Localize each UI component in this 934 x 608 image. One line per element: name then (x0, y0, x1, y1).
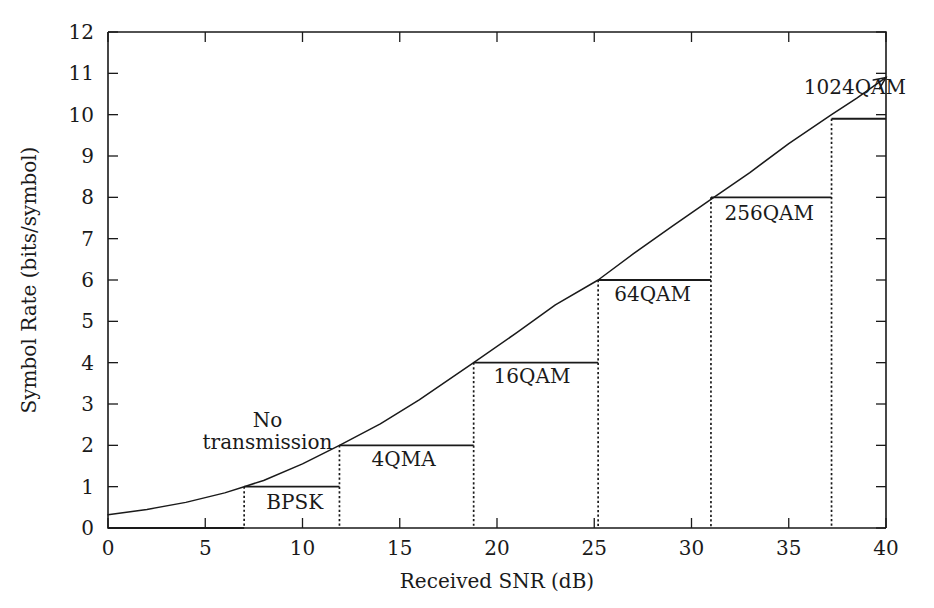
x-tick-label: 20 (484, 536, 509, 560)
y-tick-label: 10 (69, 103, 94, 127)
y-tick-label: 7 (81, 227, 94, 251)
y-tick-label: 6 (81, 268, 94, 292)
figure-container: 0123456789101112 0510152025303540 Notran… (0, 0, 934, 608)
x-tick-label: 25 (582, 536, 607, 560)
y-tick-label: 1 (81, 475, 94, 499)
x-axis-ticks: 0510152025303540 (102, 32, 899, 560)
1024qam-label: 1024QAM (804, 75, 906, 99)
x-tick-label: 40 (873, 536, 898, 560)
x-tick-label: 15 (387, 536, 412, 560)
y-axis-title: Symbol Rate (bits/symbol) (17, 147, 41, 414)
y-tick-label: 3 (81, 392, 94, 416)
region-annotations: NotransmissionBPSK4QMA16QAM64QAM256QAM10… (203, 75, 906, 514)
x-tick-label: 35 (776, 536, 801, 560)
16qam-label: 16QAM (494, 364, 571, 388)
bpsk-label: BPSK (266, 490, 324, 514)
capacity-chart: 0123456789101112 0510152025303540 Notran… (0, 0, 934, 608)
y-tick-label: 2 (81, 433, 94, 457)
x-tick-label: 10 (290, 536, 315, 560)
256qam-label: 256QAM (725, 201, 815, 225)
modulation-step-function (108, 119, 886, 528)
y-axis-ticks: 0123456789101112 (69, 20, 886, 540)
y-tick-label: 5 (81, 309, 94, 333)
y-tick-label: 12 (69, 20, 94, 44)
y-tick-label: 4 (81, 351, 94, 375)
y-tick-label: 8 (81, 185, 94, 209)
x-axis-title: Received SNR (dB) (400, 569, 594, 593)
y-tick-label: 11 (69, 61, 94, 85)
x-tick-label: 5 (199, 536, 212, 560)
no-transmission-line1: No (253, 408, 283, 432)
4qma-label: 4QMA (372, 447, 437, 471)
64qam-label: 64QAM (614, 282, 691, 306)
x-tick-label: 30 (679, 536, 704, 560)
y-tick-label: 0 (81, 516, 94, 540)
no-transmission-line2: transmission (203, 430, 333, 454)
y-tick-label: 9 (81, 144, 94, 168)
x-tick-label: 0 (102, 536, 115, 560)
